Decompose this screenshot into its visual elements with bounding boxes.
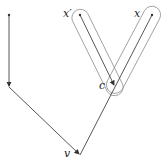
node-x [151, 14, 153, 16]
label-c: c [99, 79, 105, 92]
node-top-left [8, 14, 10, 16]
diagram-canvas: x′ x c v [0, 0, 162, 167]
node-x-prime [79, 14, 81, 16]
label-x-prime: x′ [63, 7, 72, 20]
edge-xprime-to-c [80, 15, 114, 85]
label-v: v [64, 147, 71, 160]
edge-x-to-v [80, 15, 152, 155]
capsule-xprime-c [72, 9, 123, 95]
label-x: x [134, 7, 141, 20]
edge-mid-left-to-v [9, 87, 79, 154]
